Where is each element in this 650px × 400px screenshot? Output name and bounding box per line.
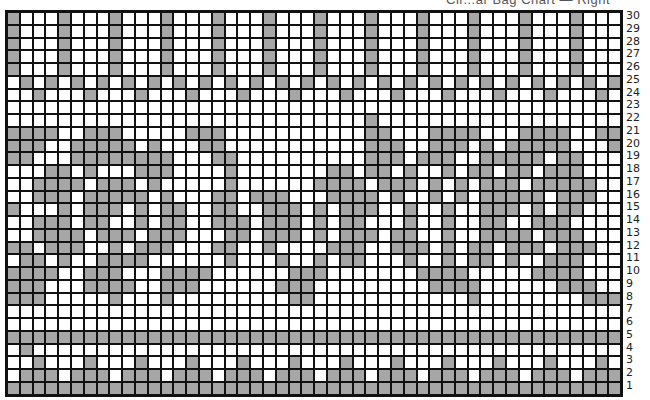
grid-cell [161,229,174,242]
grid-cell [186,127,199,140]
grid-cell [468,127,481,140]
grid-cell [212,140,225,153]
grid-cell [532,140,545,153]
grid-cell [84,293,97,306]
grid-cell [314,89,327,102]
grid-cell [135,127,148,140]
grid-cell [301,254,314,267]
grid-cell [237,305,250,318]
grid-cell [429,76,442,89]
grid-cell [353,382,366,395]
row-label: 5 [626,329,640,342]
grid-cell [84,63,97,76]
grid-cell [122,12,135,25]
grid-cell [276,369,289,382]
grid-cell [314,293,327,306]
grid-cell [33,318,46,331]
grid-cell [186,267,199,280]
grid-cell [417,165,430,178]
grid-cell [109,229,122,242]
grid-cell [480,382,493,395]
grid-cell [263,318,276,331]
grid-cell [532,50,545,63]
grid-cell [199,203,212,216]
grid-cell [480,38,493,51]
grid-cell [340,369,353,382]
grid-cell [289,382,302,395]
grid-cell [596,12,609,25]
grid-cell [468,203,481,216]
grid-cell [71,152,84,165]
grid-cell [340,254,353,267]
grid-cell [301,203,314,216]
grid-cell [391,25,404,38]
grid-cell [519,25,532,38]
grid-cell [186,152,199,165]
grid-cell [225,50,238,63]
grid-cell [596,369,609,382]
grid-cell [557,305,570,318]
grid-cell [327,356,340,369]
grid-cell [71,140,84,153]
grid-cell [327,344,340,357]
chart-title: Cir...ar Bag Chart — Right [446,0,610,7]
grid-cell [506,293,519,306]
grid-cell [404,140,417,153]
grid-cell [225,127,238,140]
grid-cell [263,50,276,63]
grid-cell [608,382,621,395]
grid-cell [97,12,110,25]
grid-cell [33,63,46,76]
grid-cell [570,331,583,344]
grid-cell [506,331,519,344]
grid-cell [109,25,122,38]
grid-cell [161,382,174,395]
grid-cell [301,63,314,76]
grid-cell [289,152,302,165]
grid-cell [250,101,263,114]
grid-cell [263,152,276,165]
grid-cell [250,140,263,153]
grid-cell [20,293,33,306]
grid-cell [161,203,174,216]
grid-cell [7,114,20,127]
grid-cell [314,229,327,242]
grid-cell [544,216,557,229]
grid-cell [71,76,84,89]
grid-cell [212,114,225,127]
grid-cell [596,318,609,331]
grid-cell [84,191,97,204]
grid-cell [455,152,468,165]
grid-cell [404,229,417,242]
grid-cell [493,191,506,204]
grid-cell [596,178,609,191]
grid-cell [148,50,161,63]
grid-cell [276,344,289,357]
grid-cell [237,216,250,229]
grid-cell [20,152,33,165]
grid-cell [33,127,46,140]
grid-cell [199,178,212,191]
grid-cell [519,178,532,191]
grid-cell [506,127,519,140]
grid-cell [378,165,391,178]
grid-cell [557,76,570,89]
grid-cell [608,152,621,165]
grid-cell [583,369,596,382]
grid-cell [404,254,417,267]
grid-cell [583,12,596,25]
grid-cell [353,12,366,25]
grid-cell [532,25,545,38]
grid-cell [161,254,174,267]
grid-cell [570,12,583,25]
grid-cell [135,12,148,25]
grid-cell [97,369,110,382]
grid-cell [404,101,417,114]
grid-cell [378,178,391,191]
grid-cell [45,267,58,280]
grid-cell [480,50,493,63]
grid-cell [161,293,174,306]
row-label: 9 [626,278,640,291]
grid-cell [429,127,442,140]
grid-cell [391,344,404,357]
